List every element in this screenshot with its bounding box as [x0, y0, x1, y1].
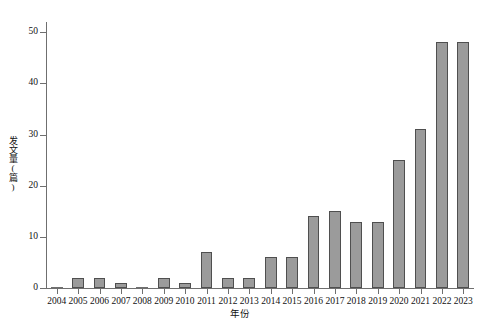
bar-slot: [329, 22, 341, 288]
x-tick-label: 2010: [176, 296, 195, 306]
bar: [72, 278, 84, 288]
bar-slot: [350, 22, 362, 288]
bar-slot: [179, 22, 191, 288]
bar-slot: [436, 22, 448, 288]
bar-slot: [286, 22, 298, 288]
x-tick-mark: [314, 289, 315, 294]
bar: [436, 42, 448, 288]
x-tick-label: 2007: [111, 296, 130, 306]
bar-slot: [51, 22, 63, 288]
x-tick-mark: [399, 289, 400, 294]
bar: [265, 257, 277, 288]
bar-slot: [243, 22, 255, 288]
bar-slot: [158, 22, 170, 288]
bar-slot: [115, 22, 127, 288]
bar: [222, 278, 234, 288]
x-tick-mark: [292, 289, 293, 294]
bar-slot: [457, 22, 469, 288]
bar-slot: [136, 22, 148, 288]
x-tick-label: 2019: [368, 296, 387, 306]
x-tick-label: 2015: [283, 296, 302, 306]
x-tick-mark: [164, 289, 165, 294]
bar: [372, 222, 384, 289]
x-tick-mark: [207, 289, 208, 294]
bar: [457, 42, 469, 288]
bar-chart: 发文量(篇) 01020304050 200420052006200720082…: [0, 0, 480, 328]
bar: [243, 278, 255, 288]
bar: [329, 211, 341, 288]
y-tick-mark: [40, 288, 47, 289]
bar: [179, 283, 191, 288]
x-tick-label: 2004: [47, 296, 66, 306]
x-tick-label: 2006: [90, 296, 109, 306]
x-tick-mark: [271, 289, 272, 294]
y-tick-label: 40: [0, 78, 38, 88]
bar: [415, 129, 427, 288]
x-tick-mark: [57, 289, 58, 294]
x-tick-mark: [142, 289, 143, 294]
x-tick-label: 2012: [218, 296, 237, 306]
x-tick-mark: [335, 289, 336, 294]
bar: [158, 278, 170, 288]
bar-series: [46, 22, 474, 288]
bar-slot: [222, 22, 234, 288]
bar-slot: [94, 22, 106, 288]
bar: [136, 287, 148, 288]
bar-slot: [372, 22, 384, 288]
y-tick-label: 30: [0, 130, 38, 140]
x-axis-line: [46, 288, 474, 289]
y-tick-label: 0: [0, 283, 38, 293]
bar: [201, 252, 213, 288]
x-tick-label: 2008: [133, 296, 152, 306]
bar-slot: [265, 22, 277, 288]
y-tick-label: 20: [0, 181, 38, 191]
x-tick-mark: [228, 289, 229, 294]
y-tick-label: 50: [0, 27, 38, 37]
bar-slot: [201, 22, 213, 288]
x-tick-mark: [421, 289, 422, 294]
x-axis-title: 年份: [0, 309, 480, 320]
x-tick-label: 2018: [347, 296, 366, 306]
x-tick-mark: [442, 289, 443, 294]
x-tick-label: 2005: [69, 296, 88, 306]
bar: [350, 222, 362, 289]
x-tick-label: 2014: [261, 296, 280, 306]
x-tick-mark: [378, 289, 379, 294]
x-tick-label: 2011: [197, 296, 216, 306]
bar-slot: [72, 22, 84, 288]
bar-slot: [415, 22, 427, 288]
x-tick-label: 2021: [411, 296, 430, 306]
x-tick-mark: [463, 289, 464, 294]
x-tick-mark: [121, 289, 122, 294]
x-tick-label: 2016: [304, 296, 323, 306]
x-tick-label: 2020: [390, 296, 409, 306]
x-tick-label: 2013: [240, 296, 259, 306]
x-tick-label: 2023: [454, 296, 473, 306]
y-tick-label: 10: [0, 232, 38, 242]
x-tick-label: 2009: [154, 296, 173, 306]
bar-slot: [308, 22, 320, 288]
bar: [115, 283, 127, 288]
bar-slot: [393, 22, 405, 288]
bar: [51, 287, 63, 288]
x-tick-label: 2022: [432, 296, 451, 306]
bar: [393, 160, 405, 288]
bar: [94, 278, 106, 288]
x-tick-mark: [100, 289, 101, 294]
x-tick-mark: [356, 289, 357, 294]
x-tick-mark: [249, 289, 250, 294]
x-tick-mark: [78, 289, 79, 294]
x-tick-mark: [185, 289, 186, 294]
bar: [308, 216, 320, 288]
x-tick-label: 2017: [325, 296, 344, 306]
bar: [286, 257, 298, 288]
